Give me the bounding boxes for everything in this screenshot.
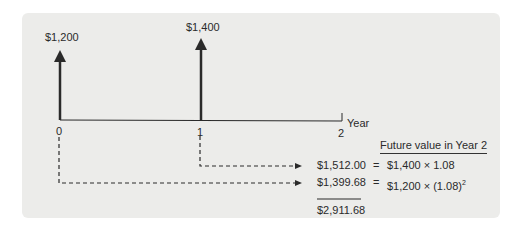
fv-row-1-equals: = <box>373 159 379 172</box>
cash-flow-label-year-0: $1,200 <box>45 31 79 43</box>
axis-tick-2: 2 <box>338 127 344 139</box>
fv-row-2-formula: $1,200 × (1.08)2 <box>387 176 466 193</box>
fv-total: $2,911.68 <box>317 204 365 217</box>
fv-row-2-exponent: 2 <box>462 179 466 186</box>
fv-row-2-equals: = <box>373 176 379 189</box>
future-value-header: Future value in Year 2 <box>380 139 487 154</box>
fv-row-1-formula: $1,400 × 1.08 <box>387 159 455 172</box>
timeline-graphic <box>0 0 525 239</box>
cash-flow-label-year-1: $1,400 <box>186 21 220 33</box>
fv-row-1-value: $1,512.00 <box>317 159 366 172</box>
axis-tick-1: 1 <box>197 126 203 138</box>
fv-row-2-formula-base: $1,200 × (1.08) <box>387 180 462 192</box>
axis-tick-0: 0 <box>56 125 62 137</box>
axis-label-year: Year <box>347 117 369 129</box>
fv-row-2-value: $1,399.68 <box>317 176 366 189</box>
